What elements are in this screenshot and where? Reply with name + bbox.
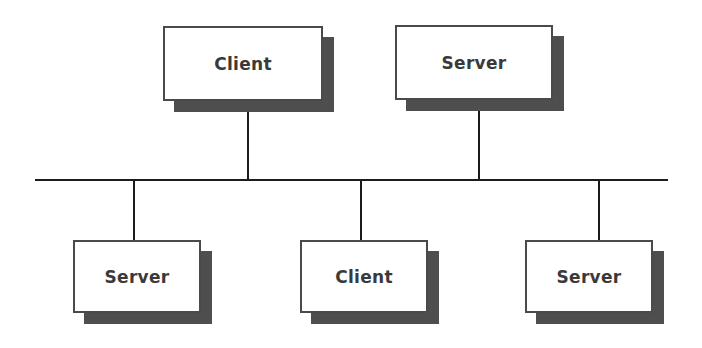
node-bottom-client[interactable]: Client (300, 240, 428, 313)
node-bottom-server-right[interactable]: Server (525, 240, 653, 313)
node-box[interactable]: Server (525, 240, 653, 313)
backbone-bus-line (35, 179, 668, 181)
node-top-client[interactable]: Client (163, 26, 323, 101)
node-box[interactable]: Server (395, 25, 553, 100)
connector-line-bottom-client (360, 179, 362, 241)
connector-line-bottom-server-left (133, 179, 135, 241)
node-box[interactable]: Client (163, 26, 323, 101)
node-box[interactable]: Server (73, 240, 201, 313)
node-label: Server (105, 267, 170, 287)
node-box[interactable]: Client (300, 240, 428, 313)
connector-line-top-server (478, 111, 480, 181)
node-bottom-server-left[interactable]: Server (73, 240, 201, 313)
node-label: Client (335, 267, 393, 287)
connector-line-top-client (247, 112, 249, 181)
connector-line-bottom-server-right (598, 179, 600, 241)
network-diagram-canvas: Client Server Server Client Server (0, 0, 702, 348)
node-label: Client (214, 54, 272, 74)
node-label: Server (442, 53, 507, 73)
node-label: Server (557, 267, 622, 287)
node-top-server[interactable]: Server (395, 25, 553, 100)
